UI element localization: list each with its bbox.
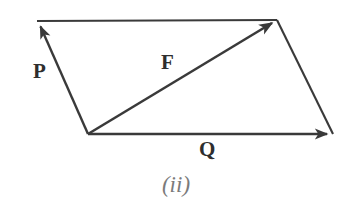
vector-p-arrow [41,27,89,135]
vector-f-resultant-arrow [88,23,272,134]
parallelogram-top-edge [37,20,277,21]
figure-caption: (ii) [0,173,352,196]
vector-label-f: F [161,52,174,73]
vector-label-q: Q [199,139,216,160]
vector-label-p: P [33,61,46,82]
parallelogram-right-edge [277,20,333,134]
figure-container: P F Q (ii) [0,0,352,217]
